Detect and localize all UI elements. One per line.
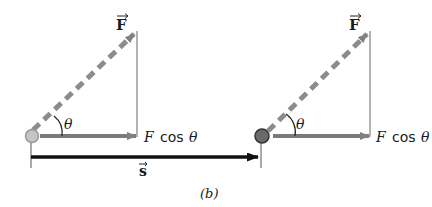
component-label-theta: θ: [421, 129, 430, 145]
component-label-cos: cos: [392, 129, 416, 145]
ball-start: [26, 130, 39, 143]
component-label-theta: θ: [189, 129, 198, 145]
angle-arc: [54, 116, 62, 136]
force-vector-dashed: [268, 34, 367, 131]
force-vector-dashed: [33, 34, 134, 130]
work-force-diagram: F θ F cos θ s (b) F θ F cos θ: [0, 0, 432, 207]
angle-label: θ: [64, 116, 73, 132]
figure-caption: (b): [200, 186, 218, 201]
angle-arc: [286, 114, 295, 136]
component-label-f: F: [375, 129, 387, 145]
ball-end: [255, 129, 269, 143]
left-diagram: F θ F cos θ: [26, 14, 199, 169]
right-diagram: F θ F cos θ: [255, 14, 430, 169]
component-label-f: F: [143, 129, 155, 145]
component-label-cos: cos: [160, 129, 184, 145]
angle-label: θ: [296, 116, 305, 132]
displacement-vector-group: s (b): [31, 157, 258, 201]
